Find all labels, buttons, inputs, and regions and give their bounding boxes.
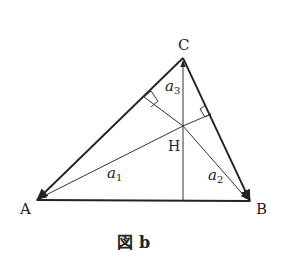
point-label-h: H xyxy=(168,138,180,154)
vertex-label-b: B xyxy=(256,200,267,218)
figure-caption: 図b xyxy=(117,233,150,252)
vertex-label-c: C xyxy=(178,36,189,54)
vector-label-a3: a3 xyxy=(165,77,180,96)
triangle-figure: C A B H a3 a1 a2 図b xyxy=(0,0,285,260)
vertex-label-a: A xyxy=(19,200,31,218)
vector-label-a1: a1 xyxy=(107,164,122,183)
